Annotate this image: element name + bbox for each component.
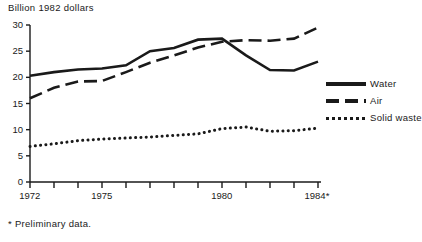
x-tick-label: 1972 (19, 191, 40, 201)
y-tick-label: 5 (3, 151, 23, 161)
y-tick-label: 30 (3, 20, 23, 30)
legend-swatch-solid-line-icon (326, 82, 366, 86)
legend-label-water: Water (370, 78, 396, 89)
x-tick-label: 1975 (91, 191, 112, 201)
y-tick-label: 10 (3, 125, 23, 135)
legend-item-solid-waste: Solid waste (326, 112, 421, 129)
y-tick-label: 15 (3, 99, 23, 109)
chart-legend: Water Air Solid waste (326, 78, 421, 129)
x-tick-label: 1984* (305, 191, 330, 201)
series-line-air (30, 28, 318, 99)
chart-footnote: * Preliminary data. (8, 218, 91, 229)
legend-item-water: Water (326, 78, 421, 95)
y-tick-label: 20 (3, 72, 23, 82)
y-tick-label: 0 (3, 177, 23, 187)
legend-label-solid-waste: Solid waste (370, 112, 422, 123)
series-line-water (30, 39, 318, 76)
legend-swatch-dashed-line-icon (326, 99, 366, 103)
legend-swatch-dotted-line-icon (326, 117, 366, 120)
x-tick-label: 1980 (211, 191, 232, 201)
series-line-solid-waste (30, 127, 318, 146)
legend-item-air: Air (326, 95, 421, 112)
legend-label-air: Air (370, 95, 383, 106)
y-tick-label: 25 (3, 46, 23, 56)
